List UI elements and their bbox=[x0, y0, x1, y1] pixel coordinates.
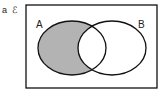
universal-set-symbol: ℰ bbox=[12, 5, 18, 15]
venn-diagram: a ℰ A B bbox=[0, 0, 158, 90]
set-b-label: B bbox=[138, 19, 145, 30]
part-label: a bbox=[2, 5, 7, 15]
set-a-label: A bbox=[36, 19, 43, 30]
